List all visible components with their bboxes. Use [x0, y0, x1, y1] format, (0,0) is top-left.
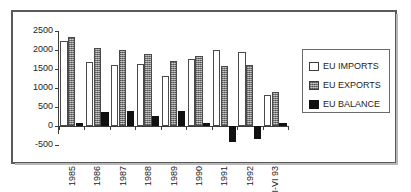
x-axis-tick-label: 1986 [93, 166, 102, 182]
x-axis-tick-label: I-VI 93 [271, 166, 280, 182]
bar-eu-exports [195, 56, 202, 126]
legend-item: EU BALANCE [309, 98, 380, 110]
y-axis-labels: 25002000150010005000-500 [19, 12, 53, 166]
bar-eu-exports [68, 37, 75, 126]
bar-eu-balance [127, 111, 134, 126]
bar-eu-exports [170, 61, 177, 126]
x-axis-labels: 19851986198719881989199019911992I-VI 93 [59, 128, 294, 168]
y-axis-tick-label: -500 [19, 140, 53, 149]
legend-item-label: EU EXPORTS [323, 81, 381, 90]
bar-eu-imports [162, 76, 169, 126]
x-axis-tick-label: 1991 [220, 166, 229, 182]
bar-eu-imports [86, 62, 93, 126]
bar-eu-exports [246, 65, 253, 126]
y-axis-tick-label: 2500 [19, 26, 53, 35]
legend-item-label: EU BALANCE [323, 100, 380, 109]
legend-swatch-balance [309, 100, 319, 109]
bar-eu-exports [221, 66, 228, 126]
y-axis-tick-label: 2000 [19, 45, 53, 54]
bar-eu-balance [152, 116, 159, 126]
legend-swatch-imports [309, 62, 319, 71]
bar-eu-exports [94, 48, 101, 126]
bar-eu-imports [137, 64, 144, 126]
y-axis-tick-label: 1000 [19, 83, 53, 92]
bar-eu-balance [101, 112, 108, 126]
y-axis-tick-label: 1500 [19, 64, 53, 73]
x-axis-tick-label: 1990 [195, 166, 204, 182]
bar-eu-exports [272, 92, 279, 126]
legend-swatch-exports [309, 81, 319, 90]
bar-eu-balance [279, 123, 286, 126]
x-axis-tick-label: 1989 [170, 166, 179, 182]
bar-eu-balance [76, 123, 83, 126]
bar-eu-balance [203, 123, 210, 126]
bar-eu-imports [238, 52, 245, 126]
figure-frame: 25002000150010005000-500 198519861987198… [11, 10, 397, 164]
bar-eu-imports [264, 95, 271, 126]
bar-chart: 25002000150010005000-500 198519861987198… [13, 12, 399, 166]
bar-eu-exports [119, 50, 126, 126]
x-axis-tick-label: 1987 [119, 166, 128, 182]
x-axis-tick-label: 1985 [68, 166, 77, 182]
bar-eu-balance [178, 111, 185, 126]
y-axis-tick-label: 0 [19, 121, 53, 130]
legend-item: EU EXPORTS [309, 79, 381, 91]
x-axis-tick-label: 1992 [246, 166, 255, 182]
bar-eu-imports [111, 65, 118, 126]
x-axis-tick-label: 1988 [144, 166, 153, 182]
legend-item: EU IMPORTS [309, 60, 379, 72]
bar-eu-exports [144, 54, 151, 126]
legend-item-label: EU IMPORTS [323, 62, 379, 71]
bar-eu-imports [213, 50, 220, 126]
y-axis-tick-label: 500 [19, 102, 53, 111]
bar-eu-imports [188, 59, 195, 126]
bar-eu-imports [60, 41, 67, 127]
chart-legend: EU IMPORTSEU EXPORTSEU BALANCE [302, 49, 390, 113]
